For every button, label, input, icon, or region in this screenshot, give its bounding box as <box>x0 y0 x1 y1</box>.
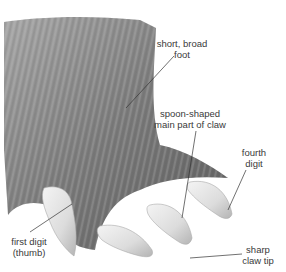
label-short-broad-foot: short, broad foot <box>150 38 214 60</box>
label-sharp-claw-tip: sharp claw tip <box>236 244 280 266</box>
label-spoon-shaped-claw: spoon-shaped main part of claw <box>150 108 230 130</box>
claw-third <box>147 204 192 244</box>
label-fourth-digit: fourth digit <box>234 147 274 169</box>
diagram-canvas: short, broad foot spoon-shaped main part… <box>0 0 286 272</box>
leader-sharp-claw-tip <box>190 254 242 258</box>
label-first-digit-thumb: first digit (thumb) <box>4 236 54 258</box>
claw-fourth <box>187 181 232 218</box>
leader-fourth-digit <box>228 170 246 210</box>
foot-illustration <box>0 0 286 272</box>
claw-second <box>97 225 152 257</box>
